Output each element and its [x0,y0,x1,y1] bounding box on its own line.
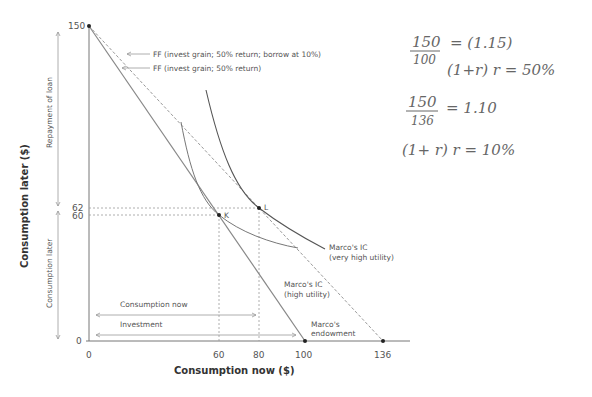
ic-very-high-label-2: (very high utility) [329,253,394,262]
hw-line3-eq: = 1.10 [446,99,497,117]
y-tick-0: 0 [76,336,82,346]
ff-borrow-line [89,26,383,341]
point-l-label: L [264,203,269,212]
hw-line1-num: 150 [412,33,441,51]
intertemporal-choice-diagram: K L FF (invest grain; 50% return; borrow… [0,0,592,397]
x-tick-100: 100 [295,350,312,360]
y-tick-60: 60 [72,211,84,221]
x-axis-title: Consumption now ($) [174,365,294,376]
hw-line4: (1+ r) r = 10% [402,141,515,159]
x-tick-136: 136 [374,350,391,360]
y-axis-title: Consumption later ($) [19,144,30,268]
ic-very-high-utility-curve [206,90,325,249]
point-k [217,213,221,217]
ic-high-label-2: (high utility) [284,290,330,299]
ff-borrow-label: FF (invest grain; 50% return; borrow at … [153,50,321,59]
x-tick-0: 0 [86,350,92,360]
x-tick-60: 60 [213,350,225,360]
hw-line2: (1+r) r = 50% [447,61,555,79]
handwritten-notes: 150 100 = (1.15) (1+r) r = 50% 150 136 =… [402,33,555,159]
point-endowment [303,339,307,343]
ic-high-label-1: Marco's IC [284,280,323,289]
x-tick-80: 80 [253,350,265,360]
hw-line3-num: 150 [408,93,437,111]
point-origin-150 [87,24,91,28]
point-136 [381,339,385,343]
ff-invest-label: FF (invest grain; 50% return) [153,64,261,73]
hw-line1-den: 100 [413,53,436,67]
point-l [257,206,261,210]
y-tick-150: 150 [68,21,85,31]
consumption-later-label: Consumption later [45,238,54,308]
hw-line1-eq: = (1.15) [450,34,513,52]
endowment-label-2: endowment [311,329,356,338]
repayment-label: Repayment of loan [45,77,54,148]
endowment-label-1: Marco's [311,320,340,329]
ic-very-high-label-1: Marco's IC [329,243,368,252]
point-k-label: K [224,211,230,220]
consumption-now-label: Consumption now [120,300,188,309]
investment-label: Investment [120,320,163,329]
hw-line3-den: 136 [411,114,434,128]
